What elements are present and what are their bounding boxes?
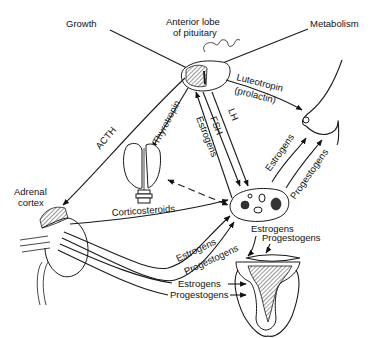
ovary-uterus-progestogens-label: Progestogens — [262, 232, 321, 243]
growth-label: Growth — [66, 18, 97, 29]
ovary-organ — [230, 188, 289, 221]
corticosteroids-label: Corticosteroids — [111, 203, 175, 218]
thyrotropin-label: Thyrotropin — [150, 98, 182, 146]
breast-organ — [303, 60, 342, 145]
adrenal-uterus-estrogens-label: Estrogens — [178, 278, 221, 289]
pituitary-stalk-icon — [204, 40, 240, 52]
adrenal-kidney-organ — [20, 207, 88, 305]
adrenal-uterus-progestogens-label: Progestogens — [170, 289, 229, 300]
ovary-uterus-progestogens-arrow — [266, 244, 270, 253]
acth-label: ACTH — [93, 124, 118, 151]
lh-label: LH — [226, 107, 241, 123]
pituitary-label-line1: Anterior lobe — [166, 16, 220, 27]
endocrine-diagram: Growth Anterior lobe of pituitary Metabo… — [0, 0, 376, 338]
ovary-uterus-estrogens-arrow — [248, 236, 256, 256]
ovary-breast-progestogens-label: Progestogens — [288, 147, 331, 202]
acth-arrow — [63, 78, 185, 205]
pituitary-organ — [181, 40, 240, 91]
adrenal-label-line2: cortex — [18, 197, 44, 208]
adrenal-uterus-progestogens-line — [58, 250, 168, 295]
thyroid-ovary-dashed-arrow — [168, 180, 228, 205]
adrenal-label-line1: Adrenal — [14, 186, 47, 197]
lh-arrow — [212, 92, 248, 186]
ovary-breast-estrogens-label: Estrogens — [263, 132, 297, 174]
pituitary-label-line2: of pituitary — [173, 27, 217, 38]
uterus-organ — [235, 255, 300, 336]
thyroid-organ — [124, 143, 161, 203]
metabolism-label: Metabolism — [310, 18, 359, 29]
